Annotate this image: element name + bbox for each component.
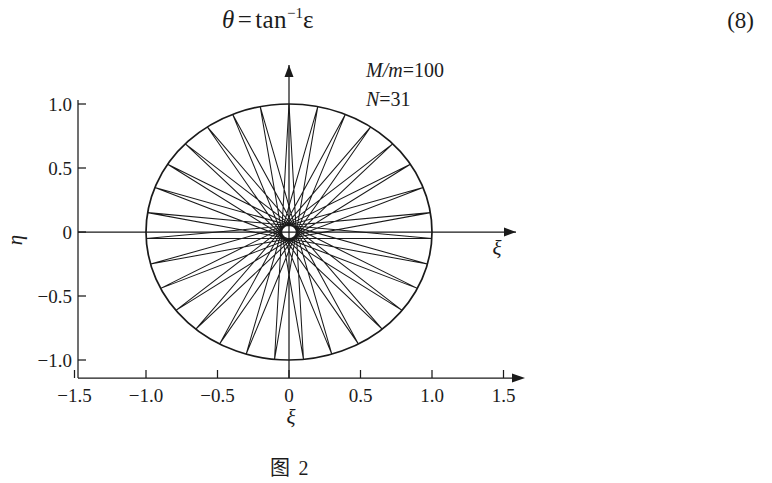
annotation-count-value: =31 [379, 88, 410, 110]
plot-svg: 1.00.50−0.5−1.0 −1.5−1.0−0.500.51.01.5 η… [0, 52, 772, 432]
x-axis-label-right: ξ [493, 236, 502, 260]
y-tick-label: −0.5 [38, 286, 72, 307]
x-tick-label: −1.0 [129, 385, 163, 406]
y-tick-label: 0 [63, 222, 73, 243]
figure-caption: 图 2 [0, 452, 580, 481]
equation-number: (8) [727, 8, 754, 34]
y-tick-group: 1.00.50−0.5−1.0 [38, 94, 86, 371]
figure-plot-area: 1.00.50−0.5−1.0 −1.5−1.0−0.500.51.01.5 η… [0, 52, 772, 432]
x-axis-spine [78, 374, 525, 383]
x-tick-label: 1.0 [420, 385, 444, 406]
equation-equals: = [235, 6, 256, 33]
annotation-count: N=31 [365, 88, 411, 110]
y-tick-label: 0.5 [48, 158, 72, 179]
y-tick-label: −1.0 [38, 350, 72, 371]
y-tick-label: 1.0 [48, 94, 72, 115]
annotation-mass-ratio-symbol: M/m [365, 59, 403, 81]
equation-expression: θ=tan−1ε [222, 6, 314, 34]
equation-theta: θ [222, 6, 235, 33]
x-tick-label: 1.5 [492, 385, 516, 406]
annotation-mass-ratio: M/m=100 [365, 59, 444, 81]
x-tick-group: −1.5−1.0−0.500.51.01.5 [57, 370, 515, 406]
equation-row: θ=tan−1ε (8) [0, 4, 772, 48]
x-tick-label: 0.5 [349, 385, 373, 406]
x-tick-label: −1.5 [57, 385, 91, 406]
annotation-mass-ratio-value: =100 [403, 59, 444, 81]
equation-exponent: −1 [287, 5, 303, 21]
equation-tan: tan [255, 6, 287, 33]
y-axis-label: η [3, 235, 27, 245]
equation-epsilon: ε [303, 6, 314, 33]
x-tick-label: 0 [284, 385, 294, 406]
x-axis-label-bottom: ξ [287, 405, 296, 429]
x-tick-label: −0.5 [200, 385, 234, 406]
